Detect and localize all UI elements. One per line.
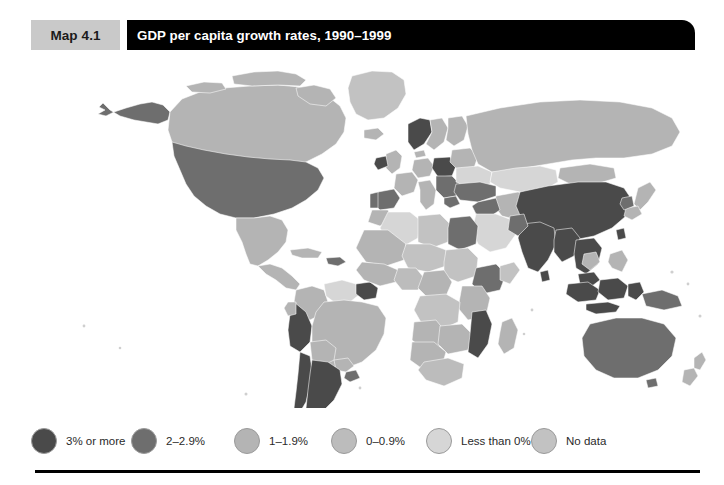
- region-venezuela: [324, 280, 360, 302]
- region-cameroon-car: [418, 270, 452, 298]
- region-mongolia: [558, 164, 616, 184]
- region-denmark: [414, 150, 426, 158]
- legend-swatch-icon: [234, 428, 260, 454]
- region-uruguay: [344, 370, 360, 382]
- region-france: [394, 172, 418, 196]
- region-japan: [634, 182, 656, 210]
- region-somalia: [500, 262, 520, 284]
- island-speck: [119, 347, 122, 350]
- island-speck: [670, 270, 673, 273]
- legend-item-3[interactable]: 0–0.9%: [331, 421, 405, 461]
- legend-label: Less than 0%: [461, 435, 531, 447]
- map-header: Map 4.1 GDP per capita growth rates, 199…: [0, 20, 724, 50]
- legend-swatch-icon: [131, 428, 157, 454]
- region-guyana: [356, 282, 378, 300]
- legend-item-5[interactable]: No data: [531, 421, 606, 461]
- region-portugal: [370, 192, 378, 208]
- island-speck: [699, 315, 702, 318]
- region-tasmania: [646, 378, 658, 388]
- region-russia: [466, 100, 680, 172]
- region-greece: [444, 196, 460, 208]
- bottom-divider: [35, 470, 700, 473]
- map-number-box: Map 4.1: [31, 20, 120, 50]
- region-mexico: [236, 216, 288, 266]
- legend-item-1[interactable]: 2–2.9%: [131, 421, 205, 461]
- region-italy: [418, 180, 436, 210]
- page-title: GDP per capita growth rates, 1990–1999: [137, 28, 391, 43]
- region-new-guinea: [642, 290, 682, 310]
- map-legend: 3% or more 2–2.9% 1–1.9% 0–0.9% Less tha…: [31, 421, 701, 461]
- region-mozambique: [468, 310, 492, 358]
- region-new-zealand-south: [682, 368, 698, 386]
- legend-label: 1–1.9%: [269, 435, 308, 447]
- region-greenland: [348, 71, 406, 120]
- region-philippines: [608, 250, 628, 272]
- region-hispaniola: [326, 257, 346, 266]
- world-map-figure: [0, 58, 724, 408]
- region-alaska: [98, 102, 170, 124]
- region-west-africa-coast: [356, 262, 398, 286]
- legend-swatch-icon: [331, 428, 357, 454]
- legend-swatch-icon: [31, 428, 57, 454]
- legend-swatch-icon: [426, 428, 452, 454]
- legend-label: No data: [566, 435, 606, 447]
- region-south-africa: [418, 358, 464, 386]
- island-speck: [83, 325, 86, 328]
- region-united-kingdom: [386, 150, 402, 174]
- region-sudan: [444, 248, 478, 282]
- region-libya: [418, 214, 450, 248]
- island-speck: [687, 283, 690, 286]
- region-egypt: [448, 216, 478, 250]
- legend-label: 0–0.9%: [366, 435, 405, 447]
- region-indonesia-java: [586, 302, 620, 314]
- region-borneo: [598, 278, 628, 300]
- legend-label: 3% or more: [66, 435, 125, 447]
- region-new-zealand: [694, 352, 706, 370]
- region-turkey: [454, 182, 496, 202]
- region-taiwan: [616, 228, 626, 240]
- region-arctic-islands: [232, 71, 306, 86]
- title-banner: GDP per capita growth rates, 1990–1999: [127, 20, 695, 50]
- region-indonesia-sumatra: [566, 282, 600, 302]
- legend-item-4[interactable]: Less than 0%: [426, 421, 531, 461]
- region-australia: [582, 318, 676, 378]
- region-madagascar: [498, 318, 518, 354]
- region-central-america: [258, 264, 300, 290]
- legend-swatch-icon: [531, 428, 557, 454]
- island-speck: [531, 309, 534, 312]
- region-sulawesi: [628, 282, 644, 300]
- region-sri-lanka: [540, 270, 550, 282]
- region-iceland: [364, 128, 384, 140]
- legend-label: 2–2.9%: [166, 435, 205, 447]
- island-speck: [523, 333, 526, 336]
- legend-item-0[interactable]: 3% or more: [31, 421, 125, 461]
- region-cuba: [290, 248, 322, 258]
- island-speck: [359, 387, 362, 390]
- island-speck: [245, 393, 248, 396]
- region-finland: [446, 116, 468, 146]
- world-choropleth-map: [0, 58, 724, 408]
- region-ecuador: [284, 302, 296, 316]
- legend-item-2[interactable]: 1–1.9%: [234, 421, 308, 461]
- region-germany: [412, 158, 434, 178]
- map-number-label: Map 4.1: [50, 28, 100, 43]
